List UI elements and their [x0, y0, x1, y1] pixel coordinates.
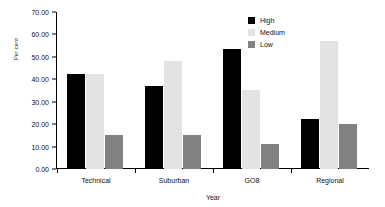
x-axis-tick-cell — [291, 169, 369, 175]
bar-low — [339, 124, 357, 169]
legend-item-high: High — [248, 14, 285, 26]
x-axis-ticks — [57, 169, 369, 175]
legend-swatch-icon — [248, 41, 255, 48]
bar-high — [301, 119, 319, 169]
x-axis-tick-mark — [57, 169, 58, 173]
bar-low — [261, 144, 279, 169]
x-axis-category-label: GO8 — [213, 177, 291, 184]
x-axis-tick-cell — [213, 169, 291, 175]
bar-low — [183, 135, 201, 169]
y-axis-tick-label: 20.00 — [31, 121, 49, 128]
x-axis-category-label: Regional — [291, 177, 369, 184]
legend-label: Low — [260, 41, 273, 48]
bar-groups — [57, 12, 369, 169]
y-axis-ticks: 70.0060.0050.0040.0030.0020.0010.000.00 — [0, 12, 56, 169]
bar-medium — [86, 74, 104, 169]
bar-group — [291, 12, 369, 169]
bar-high — [67, 74, 85, 169]
y-axis-tick-label: 60.00 — [31, 31, 49, 38]
bar-high — [223, 49, 241, 169]
x-axis-category-label: Technical — [57, 177, 135, 184]
legend-label: High — [260, 17, 274, 24]
legend-label: Medium — [260, 29, 285, 36]
x-axis-category-label: Suburban — [135, 177, 213, 184]
y-axis-tick-label: 10.00 — [31, 143, 49, 150]
bar-chart: Per cent 70.0060.0050.0040.0030.0020.001… — [0, 0, 385, 207]
y-axis-tick-label: 50.00 — [31, 53, 49, 60]
x-axis-tick-mark — [291, 169, 292, 173]
y-axis-tick-label: 30.00 — [31, 98, 49, 105]
x-axis-tick-mark — [135, 169, 136, 173]
bar-high — [145, 86, 163, 169]
bar-group — [57, 12, 135, 169]
bar-medium — [164, 61, 182, 169]
legend-item-medium: Medium — [248, 26, 285, 38]
bar-group — [135, 12, 213, 169]
y-axis-tick-label: 0.00 — [35, 166, 49, 173]
x-axis-tick-cell — [135, 169, 213, 175]
bar-low — [105, 135, 123, 169]
x-axis-tick-cell — [57, 169, 135, 175]
bar-medium — [320, 41, 338, 169]
x-axis-tick-mark — [213, 169, 214, 173]
bar-medium — [242, 90, 260, 169]
x-axis-title: Year — [57, 194, 369, 201]
x-axis-labels: TechnicalSuburbanGO8Regional — [57, 177, 369, 184]
y-axis-tick-label: 70.00 — [31, 9, 49, 16]
legend-swatch-icon — [248, 29, 255, 36]
chart-legend: HighMediumLow — [248, 14, 285, 50]
y-axis-tick-label: 40.00 — [31, 76, 49, 83]
legend-swatch-icon — [248, 17, 255, 24]
legend-item-low: Low — [248, 38, 285, 50]
